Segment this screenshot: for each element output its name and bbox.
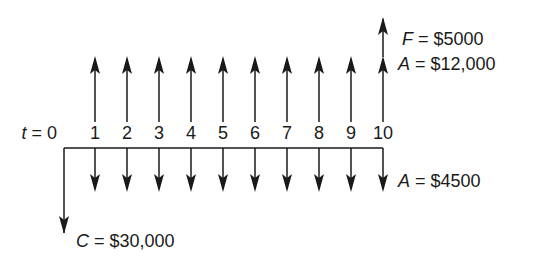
annual-income-label: A = $12,000 (397, 54, 496, 74)
period-label: 9 (346, 123, 356, 143)
cost-arrows (90, 148, 388, 192)
income-arrows (90, 56, 388, 122)
period-label: 6 (250, 123, 260, 143)
annual-cost-label: A = $4500 (397, 171, 481, 191)
future-value-label: F = $5000 (402, 29, 484, 49)
period-label: 7 (282, 123, 292, 143)
period-label: 2 (122, 123, 132, 143)
initial-cost-arrow (59, 148, 69, 234)
period-label: 3 (154, 123, 164, 143)
period-label: 8 (314, 123, 324, 143)
period-label: 10 (373, 123, 393, 143)
initial-cost-label: C = $30,000 (76, 231, 175, 251)
cash-flow-diagram: t = 0 12345678910 F = $5000 A = $12,000 … (0, 0, 544, 263)
period-label: 5 (218, 123, 228, 143)
period-label: 1 (90, 123, 100, 143)
period-label: 4 (186, 123, 196, 143)
period-labels: 12345678910 (90, 123, 393, 143)
time-label-t0: t = 0 (21, 123, 57, 143)
future-value-arrow (378, 17, 388, 57)
